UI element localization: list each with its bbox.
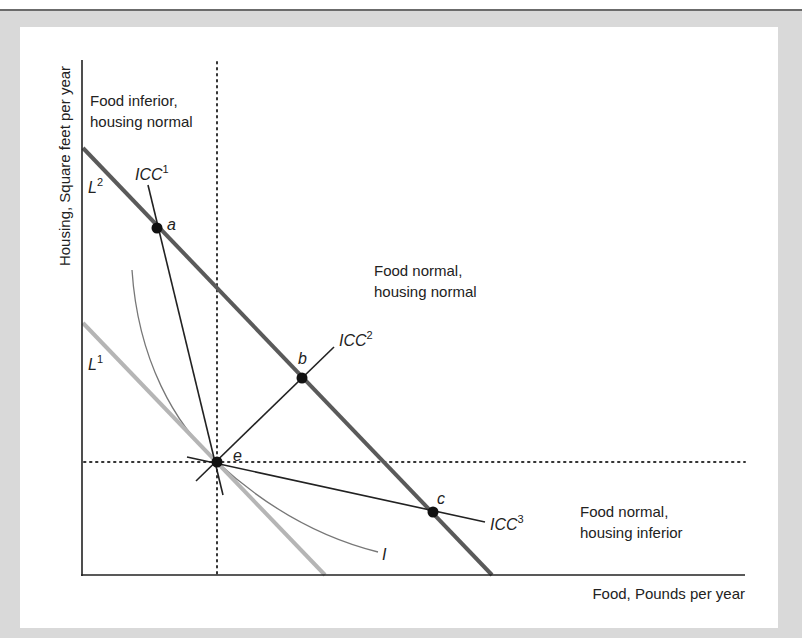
icc1-label: ICC1 (135, 163, 169, 183)
income-consumption-diagram: a b c e L2 L1 ICC1 ICC2 ICC3 I Food infe… (0, 0, 802, 638)
point-e-label: e (233, 447, 242, 464)
point-c (428, 507, 439, 518)
L1-label: L1 (88, 353, 103, 373)
indifference-curve-label: I (382, 546, 387, 563)
point-c-label: c (437, 490, 445, 507)
point-a (152, 223, 163, 234)
point-b-label: b (298, 350, 307, 367)
x-axis-label: Food, Pounds per year (592, 585, 745, 602)
icc3-label: ICC3 (490, 513, 524, 533)
point-a-label: a (167, 216, 176, 233)
y-axis-label: Housing, Square feet per year (56, 66, 73, 266)
region-top-left-line2: housing normal (90, 113, 193, 130)
region-top-right-line2: housing normal (374, 283, 477, 300)
icc2-label: ICC2 (339, 329, 373, 349)
region-top-left-line1: Food inferior, (90, 92, 178, 109)
region-bottom-right-line2: housing inferior (580, 524, 683, 541)
L2-label: L2 (88, 176, 103, 196)
point-e (212, 457, 223, 468)
region-bottom-right-line1: Food normal, (580, 503, 668, 520)
point-b (297, 373, 308, 384)
region-top-right-line1: Food normal, (374, 262, 462, 279)
